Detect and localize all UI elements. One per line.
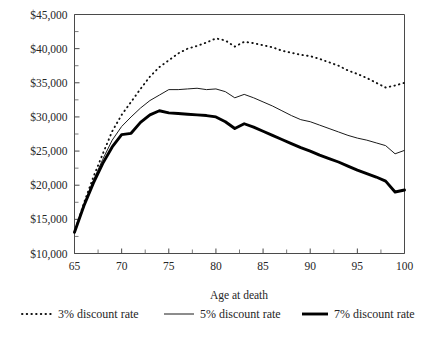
chart-container: $10,000$15,000$20,000$25,000$30,000$35,0… <box>0 0 428 342</box>
legend-label: 3% discount rate <box>58 307 139 321</box>
y-tick-label: $20,000 <box>30 179 68 192</box>
x-tick-label: 75 <box>163 260 175 272</box>
x-tick-label: 65 <box>69 260 81 272</box>
y-tick-label: $10,000 <box>30 248 68 261</box>
x-axis-ticks <box>75 249 405 254</box>
legend-label: 5% discount rate <box>200 307 281 321</box>
x-tick-label: 100 <box>396 260 414 272</box>
x-tick-label: 85 <box>257 260 269 272</box>
x-tick-label: 95 <box>352 260 364 272</box>
chart-legend: 3% discount rate5% discount rate7% disco… <box>22 307 415 321</box>
y-axis-tick-labels: $10,000$15,000$20,000$25,000$30,000$35,0… <box>30 9 68 261</box>
data-series-layer <box>75 38 405 232</box>
x-axis-title: Age at death <box>210 289 268 302</box>
y-tick-label: $45,000 <box>30 9 68 22</box>
y-tick-label: $30,000 <box>30 111 68 124</box>
y-tick-label: $15,000 <box>30 213 68 226</box>
x-axis-tick-labels: 65707580859095100 <box>69 260 414 272</box>
y-tick-label: $25,000 <box>30 145 68 158</box>
x-tick-label: 90 <box>304 260 316 272</box>
line-chart-figure: $10,000$15,000$20,000$25,000$30,000$35,0… <box>0 0 428 342</box>
series-line-7-discount-rate <box>75 111 405 233</box>
y-tick-label: $40,000 <box>30 43 68 56</box>
legend-label: 7% discount rate <box>334 307 415 321</box>
series-line-5-discount-rate <box>75 88 405 232</box>
y-tick-label: $35,000 <box>30 77 68 90</box>
x-tick-label: 70 <box>116 260 128 272</box>
x-tick-label: 80 <box>210 260 222 272</box>
